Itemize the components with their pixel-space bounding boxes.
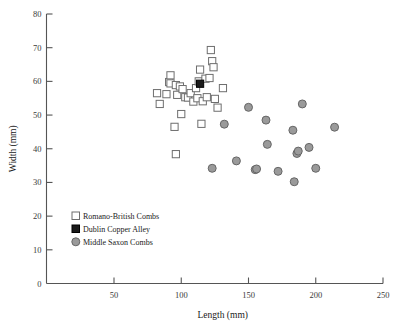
data-point-circle bbox=[331, 123, 339, 131]
y-tick-label: 40 bbox=[33, 144, 42, 154]
y-tick-label: 10 bbox=[33, 245, 42, 255]
x-tick-label: 150 bbox=[242, 290, 255, 300]
x-tick-label: 200 bbox=[309, 290, 322, 300]
data-point-square bbox=[210, 64, 217, 71]
legend-marker-grey-circle bbox=[72, 238, 80, 246]
legend-label: Romano-British Combs bbox=[83, 212, 159, 221]
series-romano-british-combs bbox=[153, 46, 226, 157]
y-tick-label: 80 bbox=[33, 9, 42, 19]
legend-label: Dublin Copper Alley bbox=[83, 225, 150, 234]
y-tick-label: 50 bbox=[33, 110, 42, 120]
data-point-square bbox=[203, 94, 210, 101]
data-point-square bbox=[207, 46, 214, 53]
legend-marker-open-square bbox=[72, 212, 80, 220]
legend-marker-filled-square bbox=[72, 225, 80, 233]
data-point-circle bbox=[253, 165, 261, 173]
data-point-circle bbox=[289, 126, 297, 134]
data-point-square bbox=[167, 72, 174, 79]
data-point-circle bbox=[305, 143, 313, 151]
series-dublin-copper-alley bbox=[196, 80, 203, 87]
data-point-square bbox=[179, 86, 186, 93]
data-point-circle bbox=[232, 157, 240, 165]
data-point-circle bbox=[220, 120, 228, 128]
data-point-square bbox=[211, 95, 218, 102]
data-point-circle bbox=[274, 167, 282, 175]
x-tick-label: 50 bbox=[110, 290, 119, 300]
data-point-square bbox=[206, 74, 213, 81]
data-point-square bbox=[196, 66, 203, 73]
data-point-square bbox=[172, 151, 179, 158]
data-point-square bbox=[178, 110, 185, 117]
data-point-square bbox=[156, 100, 163, 107]
y-tick-label: 0 bbox=[37, 279, 41, 289]
data-point-square bbox=[171, 123, 178, 130]
scatter-plot-figure: 0102030405060708050100150200250 Romano-B… bbox=[0, 0, 399, 328]
data-points bbox=[153, 46, 338, 185]
x-axis-title: Length (mm) bbox=[198, 310, 248, 321]
data-point-square bbox=[219, 85, 226, 92]
data-point-circle bbox=[263, 140, 271, 148]
data-point-circle bbox=[208, 164, 216, 172]
series-middle-saxon-combs bbox=[208, 100, 338, 186]
data-point-circle bbox=[245, 103, 253, 111]
x-tick-label: 100 bbox=[175, 290, 188, 300]
data-point-circle bbox=[262, 116, 270, 124]
y-tick-label: 70 bbox=[33, 43, 42, 53]
x-tick-label: 250 bbox=[377, 290, 390, 300]
data-point-circle bbox=[298, 100, 306, 108]
data-point-circle bbox=[312, 164, 320, 172]
data-point-square bbox=[163, 91, 170, 98]
chart-canvas: 0102030405060708050100150200250 Romano-B… bbox=[0, 0, 399, 328]
data-point-circle bbox=[290, 178, 298, 186]
y-axis-title: Width (mm) bbox=[8, 125, 19, 172]
y-tick-label: 60 bbox=[33, 76, 42, 86]
data-point-square bbox=[198, 120, 205, 127]
chart-legend: Romano-British CombsDublin Copper AlleyM… bbox=[72, 212, 159, 247]
data-point-square bbox=[153, 90, 160, 97]
data-point-square bbox=[196, 80, 203, 87]
y-tick-label: 30 bbox=[33, 177, 42, 187]
data-point-square bbox=[214, 104, 221, 111]
data-point-circle bbox=[294, 147, 302, 155]
legend-label: Middle Saxon Combs bbox=[83, 238, 153, 247]
y-tick-label: 20 bbox=[33, 211, 42, 221]
